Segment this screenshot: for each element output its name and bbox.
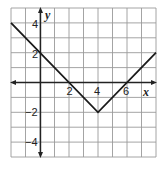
x-tick-6: 6 (123, 85, 129, 97)
y-axis-label: y (43, 8, 51, 22)
coordinate-graph: y x 2 4 6 4 2 −2 −4 (0, 0, 159, 169)
y-tick-4: 4 (32, 18, 38, 30)
y-tick-neg4: −4 (25, 136, 38, 148)
y-tick-2: 2 (32, 48, 38, 60)
x-tick-2: 2 (67, 85, 73, 97)
x-tick-4: 4 (94, 85, 100, 97)
x-axis-label: x (142, 85, 149, 99)
y-tick-neg2: −2 (25, 106, 38, 118)
